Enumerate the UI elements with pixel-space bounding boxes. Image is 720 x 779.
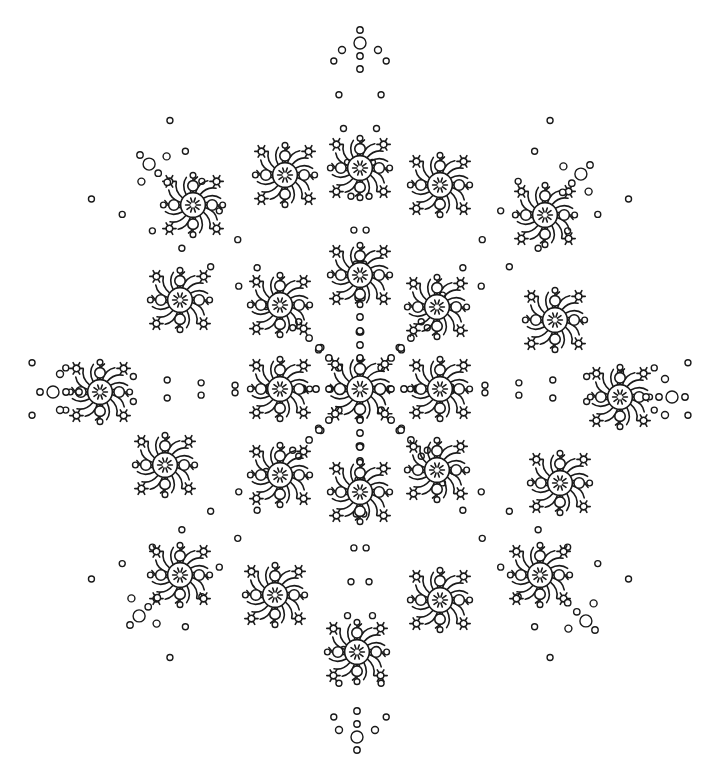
tip-ornament bbox=[643, 376, 688, 419]
flower-motif bbox=[513, 183, 578, 248]
flower-motif bbox=[326, 355, 394, 423]
flower-motif bbox=[328, 243, 393, 308]
flower-motif bbox=[523, 288, 588, 353]
flower-motif bbox=[248, 443, 313, 508]
flower-motif bbox=[405, 438, 470, 503]
flower-motif bbox=[133, 433, 198, 498]
tip-ornament bbox=[565, 600, 599, 634]
flower-motif bbox=[243, 563, 308, 628]
flower-motif bbox=[248, 273, 313, 338]
flower-motif bbox=[508, 543, 573, 608]
flower-motif bbox=[408, 153, 473, 218]
flower-motif bbox=[148, 268, 213, 333]
tip-ornament bbox=[560, 162, 594, 196]
flower-motif bbox=[328, 136, 393, 201]
flower-motif bbox=[528, 451, 593, 516]
flower-motif bbox=[253, 143, 318, 208]
snowflake-mandala-drawing bbox=[0, 0, 720, 779]
tip-ornament bbox=[137, 152, 171, 186]
tip-ornament bbox=[336, 708, 379, 753]
flower-motif bbox=[408, 568, 473, 633]
tip-ornament bbox=[127, 595, 161, 629]
flower-motif bbox=[325, 620, 390, 685]
flower-motif bbox=[328, 460, 393, 525]
flower-motif bbox=[405, 275, 470, 340]
tip-ornament bbox=[339, 27, 382, 72]
flower-motif bbox=[408, 357, 473, 422]
flower-motif bbox=[248, 357, 313, 422]
